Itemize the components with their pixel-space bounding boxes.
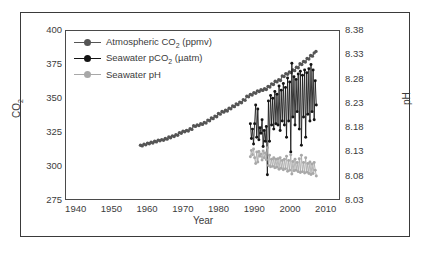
data-point <box>272 83 275 86</box>
data-point <box>265 88 268 91</box>
data-point <box>243 99 246 102</box>
ytick-right-808: 8.08 <box>345 171 364 181</box>
data-point <box>253 122 256 125</box>
legend-label-main: Seawater pH <box>106 69 161 80</box>
data-point <box>282 75 285 78</box>
data-point <box>268 85 271 88</box>
y-axis-title-right-text: pH <box>401 92 412 105</box>
legend-label-main: Seawater pCO <box>106 52 168 63</box>
data-point <box>314 169 317 172</box>
data-point <box>315 103 318 106</box>
data-point <box>279 129 282 132</box>
data-point <box>314 79 317 82</box>
data-point <box>287 159 290 162</box>
data-point <box>314 50 317 53</box>
data-point <box>299 70 302 73</box>
data-point <box>294 124 297 127</box>
data-point <box>271 97 274 100</box>
data-point <box>312 68 315 71</box>
data-point <box>284 167 287 170</box>
ytick-right-803: 8.03 <box>345 195 364 205</box>
data-point <box>306 113 309 116</box>
data-point <box>312 172 315 175</box>
y-axis-title-left-text: CO <box>11 103 22 118</box>
data-point <box>240 101 243 104</box>
data-point <box>294 158 297 161</box>
data-point <box>283 124 286 127</box>
data-point <box>254 103 257 106</box>
data-point <box>282 82 285 85</box>
ytick-left-275: 275 <box>30 195 62 205</box>
legend-label-suffix: (ppmv) <box>180 36 212 47</box>
data-point <box>304 156 307 159</box>
data-point <box>263 129 266 132</box>
data-point <box>292 75 295 78</box>
data-point <box>300 63 303 66</box>
data-point <box>257 138 260 141</box>
legend-dot-icon <box>84 55 91 62</box>
data-point <box>297 66 300 69</box>
data-point <box>298 157 301 160</box>
chart-legend: Atmospheric CO2 (ppmv) Seawater pCO2 (µa… <box>74 36 212 81</box>
data-point <box>204 121 207 124</box>
ytick-right-823: 8.23 <box>345 98 364 108</box>
data-point <box>226 109 229 112</box>
ytick-left-325: 325 <box>30 127 62 137</box>
x-axis-title-text: Year <box>193 215 213 226</box>
data-point <box>315 174 318 177</box>
data-point <box>253 156 256 159</box>
data-point <box>268 154 271 157</box>
data-point <box>255 136 258 139</box>
ytick-right-833: 8.33 <box>345 50 364 60</box>
data-point <box>283 158 286 161</box>
legend-dot-icon <box>84 71 91 78</box>
legend-label-seawater-ph: Seawater pH <box>106 70 161 80</box>
data-point <box>300 154 303 157</box>
xtick-1980: 1980 <box>208 204 229 214</box>
data-point <box>286 77 289 80</box>
data-point <box>296 110 299 113</box>
series-2 <box>249 146 318 177</box>
ytick-right-813: 8.13 <box>345 147 364 157</box>
xtick-2010: 2010 <box>315 204 336 214</box>
ytick-left-350: 350 <box>30 93 62 103</box>
data-point <box>307 57 310 60</box>
data-point <box>302 116 305 119</box>
data-point <box>301 74 304 77</box>
data-point <box>266 146 269 149</box>
ytick-right-838: 8.38 <box>345 25 364 35</box>
ytick-left-400: 400 <box>30 25 62 35</box>
ytick-right-818: 8.18 <box>345 122 364 132</box>
xtick-1970: 1970 <box>172 204 193 214</box>
legend-label-seawater-pco2: Seawater pCO2 (µatm) <box>106 53 203 65</box>
data-point <box>268 140 271 143</box>
data-point <box>313 161 316 164</box>
data-point <box>256 161 259 164</box>
data-point <box>215 115 218 118</box>
legend-label-atmospheric-co2: Atmospheric CO2 (ppmv) <box>106 37 212 49</box>
data-point <box>293 69 296 72</box>
data-point <box>289 150 292 153</box>
data-point <box>300 144 303 147</box>
legend-item-seawater-ph: Seawater pH <box>74 68 212 81</box>
data-point <box>229 107 232 110</box>
data-point <box>264 151 267 154</box>
data-point <box>297 73 300 76</box>
x-axis-title: Year <box>193 216 213 226</box>
data-point <box>265 125 268 128</box>
legend-marker-seawater-pco2 <box>74 53 101 64</box>
data-point <box>288 169 291 172</box>
xtick-1960: 1960 <box>137 204 158 214</box>
data-point <box>256 107 259 110</box>
xtick-1990: 1990 <box>244 204 265 214</box>
data-point <box>261 118 264 121</box>
data-point <box>295 78 298 81</box>
data-point <box>264 140 267 143</box>
data-point <box>285 155 288 158</box>
data-point <box>190 128 193 131</box>
data-point <box>302 161 305 164</box>
y-axis-title-right: pH <box>402 92 412 105</box>
data-point <box>251 153 254 156</box>
data-point <box>270 124 273 127</box>
figure-root: 400 375 350 325 300 275 8.38 8.33 8.28 8… <box>0 0 432 256</box>
